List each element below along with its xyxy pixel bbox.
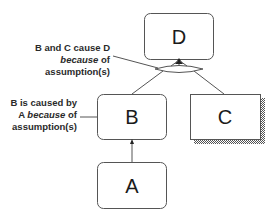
annotation-bc-line1: B and C cause D	[35, 42, 110, 53]
annotation-bc-cause-d: B and C cause D because of assumption(s)	[35, 42, 111, 77]
edge-c-to-d	[194, 71, 224, 94]
node-b[interactable]: B	[98, 95, 167, 140]
causal-diagram: D B C A B and C cause D because of assum…	[0, 0, 279, 221]
node-c[interactable]: C	[191, 95, 266, 145]
annotation-b-line1: B is caused by	[10, 97, 77, 108]
annotation-bc-line2: because of	[60, 54, 110, 65]
annotation-b-line3: assumption(s)	[12, 121, 77, 132]
node-a-label: A	[125, 175, 139, 197]
node-b-label: B	[125, 106, 138, 128]
annotation-b-caused-by-a: B is caused by A because of assumption(s…	[10, 97, 77, 132]
node-a[interactable]: A	[98, 163, 167, 209]
edge-b-to-d	[132, 71, 163, 94]
annotation-bc-line3: assumption(s)	[45, 66, 110, 77]
node-d-label: D	[172, 26, 186, 48]
annotation-b-line2: A because of	[18, 109, 78, 120]
node-c-label: C	[218, 106, 232, 128]
node-d[interactable]: D	[145, 14, 214, 60]
